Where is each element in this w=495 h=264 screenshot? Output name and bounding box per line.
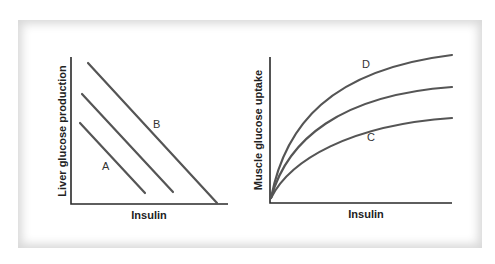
line-middle	[82, 94, 173, 192]
liver-glucose-chart: A B Insulin Liver glucose production	[56, 57, 228, 221]
right-y-axis-label: Muscle glucose uptake	[252, 70, 264, 190]
curve-d	[271, 55, 452, 198]
muscle-glucose-chart: D C Insulin Muscle glucose uptake	[252, 55, 452, 220]
line-b	[88, 63, 217, 203]
right-x-axis-label: Insulin	[348, 208, 384, 220]
label-a: A	[102, 160, 110, 172]
figure-canvas: A B Insulin Liver glucose production D C…	[0, 0, 495, 264]
line-a	[80, 123, 145, 193]
left-x-axis-label: Insulin	[131, 209, 167, 221]
label-c: C	[367, 131, 375, 143]
left-y-axis-label: Liver glucose production	[56, 65, 68, 197]
label-b: B	[153, 118, 160, 130]
curve-middle	[271, 87, 452, 198]
label-d: D	[362, 58, 370, 70]
